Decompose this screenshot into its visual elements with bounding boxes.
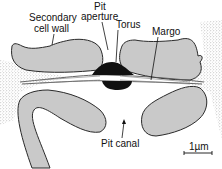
scale-bar-label: 1µm — [189, 141, 209, 152]
leader-pit-canal — [122, 122, 124, 138]
torus-lower — [102, 81, 132, 90]
cell-wall-upper-left — [12, 39, 103, 72]
leader-pit-aperture — [102, 22, 108, 50]
label-secondary-cell-wall: Secondary — [29, 12, 77, 23]
leader-torus — [116, 30, 118, 62]
arrow-pit-canal — [122, 119, 126, 124]
leader-secondary-cell-wall — [52, 34, 54, 45]
label-pit-canal: Pit canal — [101, 138, 139, 149]
cell-wall-lower-left — [18, 90, 106, 168]
label-margo: Margo — [152, 26, 181, 37]
label-pit-aperture-line2: aperture — [81, 11, 119, 22]
bordered-pit-diagram: Secondary cell wall Pit aperture Torus M… — [0, 0, 222, 169]
label-secondary-cell-wall-line2: cell wall — [34, 23, 69, 34]
label-torus: Torus — [116, 19, 140, 30]
cell-wall-lower-right — [142, 86, 207, 136]
